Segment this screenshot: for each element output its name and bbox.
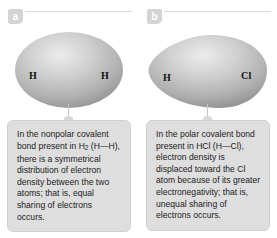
atom-label-h-left: H <box>29 70 37 81</box>
covalent-bond-figure: a H H In the nonpolar coval <box>0 0 277 238</box>
panel-a-header: a <box>8 9 132 25</box>
panel-label-a: a <box>8 9 23 24</box>
hydrogen-chloride-molecule-shape <box>139 28 277 110</box>
hydrogen-molecule-shape <box>0 28 138 110</box>
panel-a: a H H In the nonpolar coval <box>0 0 138 238</box>
panel-b: b H Cl In the pola <box>139 0 277 238</box>
caption-b: In the polar covalent bond present in HC… <box>146 120 270 231</box>
hydrogen-molecule-diagram: H H <box>0 28 138 110</box>
atom-label-h: H <box>163 72 171 83</box>
panel-b-header: b <box>147 9 271 25</box>
atom-label-h-right: H <box>101 70 109 81</box>
hydrogen-chloride-molecule-diagram: H Cl <box>139 28 277 110</box>
panel-b-rule <box>164 11 271 12</box>
caption-a: In the nonpolar covalent bond present in… <box>7 120 131 232</box>
panel-label-b: b <box>147 9 162 24</box>
caption-a-text-2: (H—H), there is a symmetrical distributi… <box>17 141 120 222</box>
caption-b-text: In the polar covalent bond present in HC… <box>156 129 260 220</box>
atom-label-cl: Cl <box>241 70 251 81</box>
panel-a-rule <box>25 11 132 12</box>
